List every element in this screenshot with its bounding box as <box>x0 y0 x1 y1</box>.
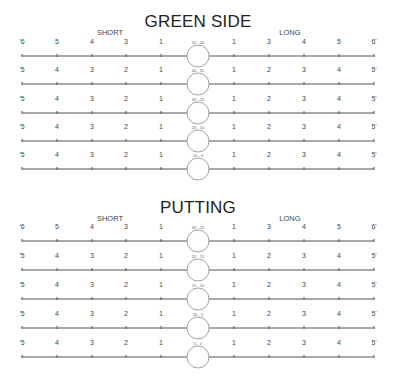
tick-label: 2 <box>267 281 271 288</box>
tick-label: 1 <box>232 310 236 317</box>
tick-label: 5 <box>55 38 59 45</box>
tick-label: 4 <box>337 123 341 130</box>
tick-label: 2 <box>124 66 128 73</box>
tick-label: 1 <box>232 252 236 259</box>
hole-circle <box>187 73 209 95</box>
tick-label: 3 <box>267 223 271 230</box>
tick-label: 1 <box>232 38 236 45</box>
tick-label: 4 <box>302 223 306 230</box>
tick-label: '5 <box>19 310 24 317</box>
tick-label: 1 <box>232 123 236 130</box>
tick-label: 5 <box>337 38 341 45</box>
scale-row: 10 - 5'5432112345' <box>19 310 376 339</box>
tick-label: 1 <box>159 339 163 346</box>
tick-label: 4 <box>55 66 59 73</box>
tick-label: 1 <box>232 223 236 230</box>
tick-label: 4 <box>337 252 341 259</box>
tick-label: 4 <box>337 66 341 73</box>
tick-label: 3 <box>302 151 306 158</box>
distance-range-label: 20 - 10 <box>192 125 205 130</box>
distance-range-label: 10 - 5 <box>193 312 204 317</box>
hole-circle <box>187 230 209 252</box>
tick-label: 1 <box>232 281 236 288</box>
hole-circle <box>187 317 209 339</box>
tick-label: 1 <box>159 123 163 130</box>
tick-label: 3 <box>124 223 128 230</box>
tick-label: '5 <box>19 281 24 288</box>
scale-row: 10 - 0'5432112345' <box>19 151 376 180</box>
tick-label: 4 <box>337 339 341 346</box>
distance-range-label: 50 - 40 <box>192 40 205 45</box>
tick-label: 3 <box>302 281 306 288</box>
tick-label: 4 <box>302 38 306 45</box>
scale-row: 40 - 31'5432112345' <box>19 66 376 95</box>
tick-label: 2 <box>267 95 271 102</box>
section-title: GREEN SIDE <box>0 12 396 32</box>
tick-label: 4 <box>55 252 59 259</box>
tick-label: 3 <box>302 339 306 346</box>
tick-label: 3 <box>90 310 94 317</box>
tick-label: '5 <box>19 151 24 158</box>
tick-label: 3 <box>90 281 94 288</box>
hole-circle <box>187 158 209 180</box>
tick-label: 2 <box>267 123 271 130</box>
tick-label: '5 <box>19 123 24 130</box>
tick-label: 4 <box>55 123 59 130</box>
tick-label: 4 <box>55 310 59 317</box>
tick-label: 2 <box>124 339 128 346</box>
tick-label: 3 <box>302 95 306 102</box>
hole-circle <box>187 288 209 310</box>
tick-label: 4 <box>90 223 94 230</box>
tick-label: 3 <box>90 95 94 102</box>
tick-label: 4 <box>90 38 94 45</box>
tick-label: 1 <box>232 66 236 73</box>
tick-label: '5 <box>19 66 24 73</box>
scale-row: 20 - 15'5432112345' <box>19 252 376 281</box>
tick-label: 2 <box>267 339 271 346</box>
tick-label: 5' <box>371 123 376 130</box>
tick-label: 3 <box>302 123 306 130</box>
tick-label: 2 <box>124 310 128 317</box>
distance-range-label: 30 - 20 <box>192 97 205 102</box>
tick-label: 3 <box>267 38 271 45</box>
tick-label: 2 <box>124 123 128 130</box>
hole-circle <box>187 130 209 152</box>
tick-label: 1 <box>159 151 163 158</box>
tick-label: 1 <box>159 66 163 73</box>
tick-label: 5' <box>371 252 376 259</box>
hole-circle <box>187 259 209 281</box>
tick-label: 3 <box>302 252 306 259</box>
tick-label: '5 <box>19 95 24 102</box>
hole-circle <box>187 45 209 67</box>
distance-range-label: 40 - 31 <box>192 68 205 73</box>
tick-label: 1 <box>159 38 163 45</box>
tick-label: 3 <box>90 252 94 259</box>
tick-label: 1 <box>159 223 163 230</box>
tick-label: 5' <box>371 310 376 317</box>
tick-label: '5 <box>19 252 24 259</box>
tick-label: 1 <box>159 281 163 288</box>
distance-range-label: 10 - 0 <box>193 153 204 158</box>
tick-label: 5' <box>371 66 376 73</box>
tick-label: 4 <box>55 151 59 158</box>
tick-label: 3 <box>90 339 94 346</box>
tick-label: 2 <box>124 95 128 102</box>
tick-label: 4 <box>337 95 341 102</box>
tick-label: 4 <box>55 95 59 102</box>
scale-row: 50 - 40'6543113456' <box>19 38 376 67</box>
hole-circle <box>187 102 209 124</box>
tick-label: 1 <box>159 310 163 317</box>
tick-label: 5 <box>55 223 59 230</box>
tick-label: 2 <box>267 252 271 259</box>
tick-label: 5' <box>371 339 376 346</box>
tick-label: 3 <box>90 151 94 158</box>
scale-row: 30 - 20'5432112345' <box>19 95 376 124</box>
tick-label: 3 <box>90 123 94 130</box>
tick-label: 1 <box>159 95 163 102</box>
tick-label: 2 <box>124 252 128 259</box>
diagram-canvas: 50 - 40'6543113456'40 - 31'5432112345'30… <box>0 0 396 380</box>
distance-range-label: 15 - 10 <box>192 283 205 288</box>
tick-label: 5' <box>371 95 376 102</box>
tick-label: 4 <box>337 281 341 288</box>
tick-label: 3 <box>124 38 128 45</box>
